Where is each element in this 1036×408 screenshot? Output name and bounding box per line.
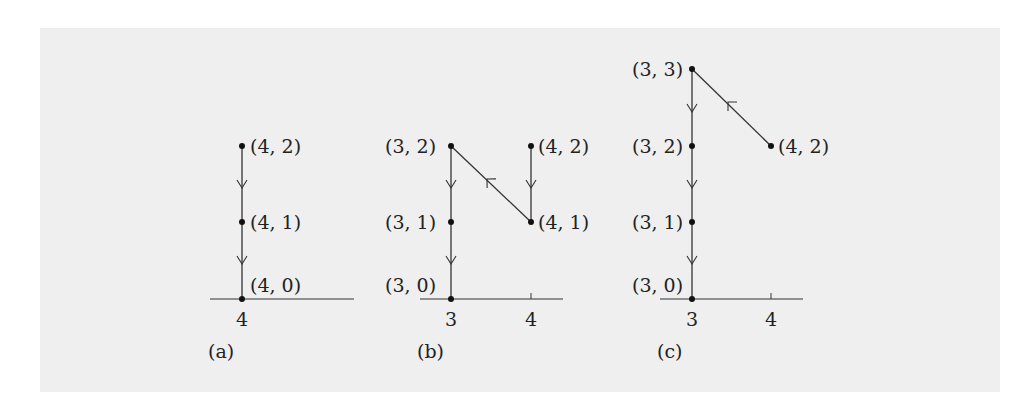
point-label: (3, 0): [385, 274, 436, 296]
point-label: (3, 2): [632, 135, 683, 157]
tick-label: 3: [445, 308, 457, 330]
point-label: (4, 1): [250, 211, 301, 233]
panel-b: (3, 2) (4, 2) (3, 1) (4, 1) (3, 0) 3 4 (…: [385, 135, 589, 362]
lattice-path-figure: (4, 2) (4, 1) (4, 0) 4 (a) (3, 2) (4, 2)…: [0, 0, 1036, 408]
point-3-2: [689, 143, 695, 149]
arrow-up-left-icon: [487, 179, 496, 188]
panel-a: (4, 2) (4, 1) (4, 0) 4 (a): [208, 135, 354, 362]
point-4-1: [528, 219, 534, 225]
point-4-0: [239, 296, 245, 302]
point-3-1: [689, 219, 695, 225]
point-3-0: [448, 296, 454, 302]
arrow-up-left-icon: [728, 102, 737, 111]
tick-label: 4: [765, 308, 777, 330]
point-label: (3, 1): [385, 211, 436, 233]
tick-label: 4: [236, 308, 248, 330]
panel-label: (a): [208, 340, 234, 362]
point-label: (4, 1): [538, 211, 589, 233]
panel-label: (b): [417, 340, 444, 362]
point-label: (4, 2): [778, 135, 829, 157]
point-3-2: [448, 143, 454, 149]
point-4-1: [239, 219, 245, 225]
edge-c-diagonal: [692, 69, 771, 146]
point-4-2: [768, 143, 774, 149]
point-label: (3, 0): [632, 274, 683, 296]
point-3-3: [689, 66, 695, 72]
point-3-0: [689, 296, 695, 302]
tick-label: 3: [686, 308, 698, 330]
point-label: (4, 0): [250, 274, 301, 296]
point-label: (3, 1): [632, 211, 683, 233]
panel-c: (3, 3) (3, 2) (4, 2) (3, 1) (3, 0) 3 4 (…: [632, 58, 829, 362]
point-label: (3, 2): [385, 135, 436, 157]
point-label: (3, 3): [632, 58, 683, 80]
point-4-2: [528, 143, 534, 149]
edge-b-diagonal: [451, 146, 531, 222]
tick-label: 4: [525, 308, 537, 330]
point-3-1: [448, 219, 454, 225]
point-label: (4, 2): [538, 135, 589, 157]
point-label: (4, 2): [250, 135, 301, 157]
panel-label: (c): [657, 340, 682, 362]
point-4-2: [239, 143, 245, 149]
